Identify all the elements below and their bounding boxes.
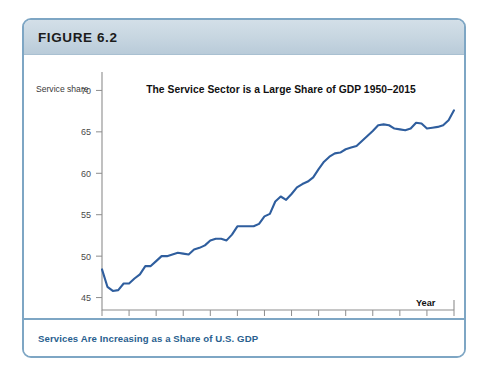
y-axis-tick-group: 455055606570 <box>81 86 102 303</box>
y-tick-label: 50 <box>81 252 91 262</box>
figure-caption: Services Are Increasing as a Share of U.… <box>38 333 258 344</box>
line-chart-plot: 455055606570 195019551960196519701975198… <box>24 54 466 324</box>
figure-footer-band: Services Are Increasing as a Share of U.… <box>24 318 464 356</box>
figure-card: FIGURE 6.2 Service share The Service Sec… <box>22 18 466 358</box>
service-share-line <box>102 110 454 291</box>
y-tick-label: 70 <box>81 86 91 96</box>
axis-frame <box>102 72 454 310</box>
y-tick-label: 60 <box>81 169 91 179</box>
chart-region: Service share The Service Sector is a La… <box>24 54 466 324</box>
y-tick-label: 65 <box>81 127 91 137</box>
figure-header-band: FIGURE 6.2 <box>24 20 464 55</box>
y-tick-label: 55 <box>81 210 91 220</box>
y-tick-label: 45 <box>81 293 91 303</box>
figure-number-label: FIGURE 6.2 <box>38 30 118 45</box>
